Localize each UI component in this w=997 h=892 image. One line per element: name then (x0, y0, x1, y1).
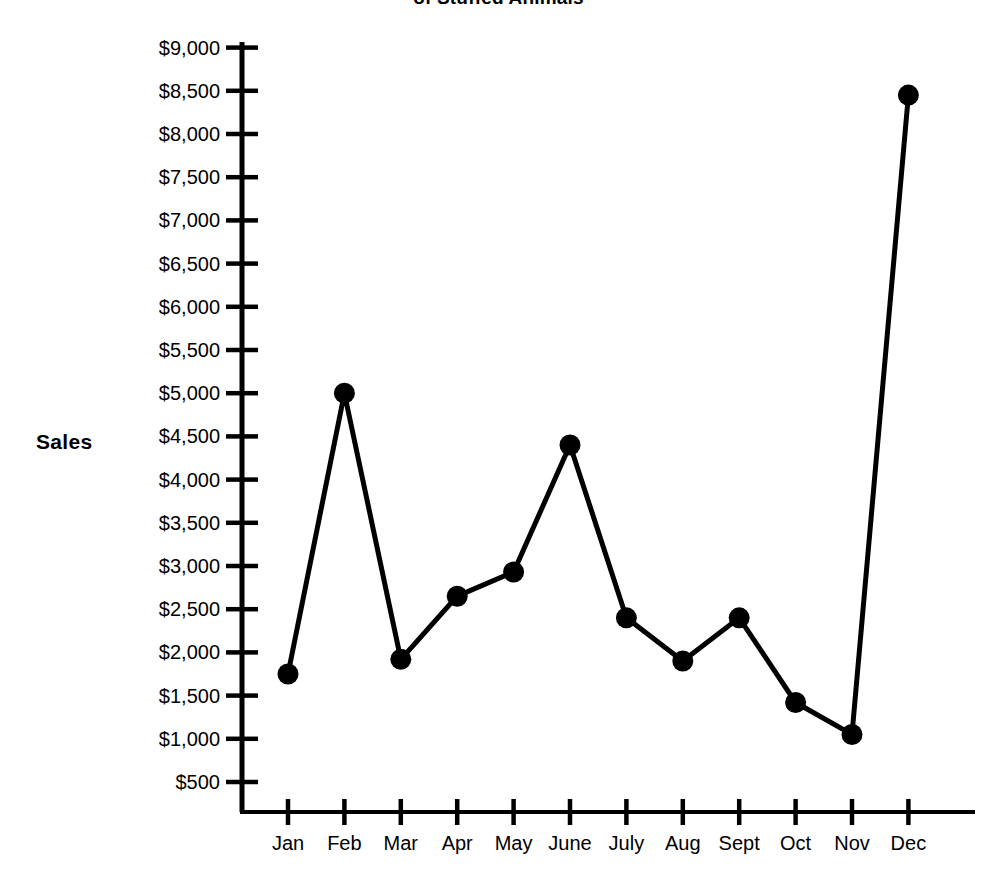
data-point-marker (278, 664, 299, 685)
data-point-marker (503, 562, 524, 583)
data-point-marker (334, 383, 355, 404)
line-chart-figure: of Stuffed Animals Sales $9,000$8,500$8,… (0, 0, 997, 892)
data-point-marker (616, 607, 637, 628)
data-point-marker (898, 85, 919, 106)
data-point-marker (842, 724, 863, 745)
data-point-marker (447, 586, 468, 607)
data-point-marker (785, 692, 806, 713)
data-point-marker (560, 435, 581, 456)
data-series-line (288, 95, 908, 734)
data-point-marker (672, 651, 693, 672)
data-point-markers (278, 85, 919, 745)
data-point-marker (390, 649, 411, 670)
data-point-marker (729, 607, 750, 628)
plot-area (0, 0, 997, 892)
